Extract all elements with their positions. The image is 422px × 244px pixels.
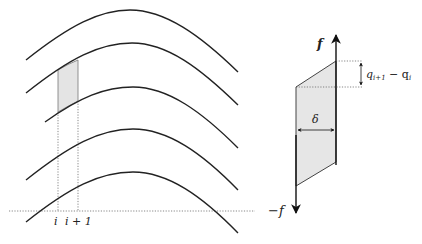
curve-1: [26, 10, 238, 72]
axis-label-f: f: [316, 36, 325, 51]
jump-label: qi+1 − qi: [366, 68, 411, 82]
tick-label-i-plus-1: i + 1: [65, 215, 92, 228]
curve-5: [26, 172, 238, 233]
width-label-delta: δ: [312, 113, 319, 126]
axis-label-minus-f: −f: [268, 203, 286, 218]
tick-label-i: i: [54, 215, 58, 228]
diagram-canvas: i i + 1 f −f δ qi+1 − qi: [0, 0, 422, 244]
curves: [26, 10, 238, 233]
curve-4: [26, 129, 238, 190]
